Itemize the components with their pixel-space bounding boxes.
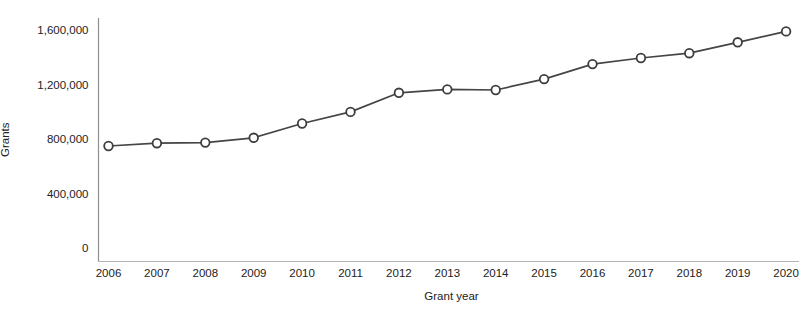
x-tick-label: 2009 <box>241 267 267 279</box>
x-tick-label: 2007 <box>144 267 170 279</box>
data-point-marker <box>395 89 404 98</box>
y-tick-label: 800,000 <box>47 133 89 145</box>
data-point-marker <box>782 27 791 36</box>
x-tick-label: 2018 <box>677 267 703 279</box>
x-tick-label: 2017 <box>628 267 654 279</box>
y-tick-label: 1,600,000 <box>37 24 88 36</box>
data-point-marker <box>588 60 597 69</box>
data-point-marker <box>249 134 258 143</box>
x-tick-label: 2011 <box>338 267 363 279</box>
x-tick-label: 2020 <box>773 267 799 279</box>
x-tick-label: 2014 <box>483 267 509 279</box>
data-point-marker <box>201 138 210 147</box>
data-point-marker <box>346 108 355 117</box>
data-point-marker <box>104 142 113 151</box>
data-point-marker <box>637 54 646 63</box>
data-point-marker <box>540 75 549 84</box>
x-tick-label: 2013 <box>435 267 461 279</box>
chart-canvas: 0400,000800,0001,200,0001,600,0002006200… <box>0 0 803 309</box>
x-tick-label: 2012 <box>386 267 412 279</box>
y-axis-title: Grants <box>0 108 12 172</box>
y-tick-label: 400,000 <box>47 188 89 200</box>
x-tick-label: 2006 <box>96 267 122 279</box>
x-tick-label: 2019 <box>725 267 751 279</box>
data-point-marker <box>491 86 500 95</box>
data-point-marker <box>733 38 742 47</box>
y-tick-label: 0 <box>82 242 88 254</box>
x-axis-title: Grant year <box>0 291 803 303</box>
x-tick-label: 2015 <box>531 267 557 279</box>
data-point-marker <box>153 139 162 148</box>
y-tick-label: 1,200,000 <box>37 79 88 91</box>
data-point-marker <box>443 85 452 94</box>
data-point-marker <box>298 119 307 128</box>
x-tick-label: 2010 <box>289 267 315 279</box>
data-point-marker <box>685 49 694 58</box>
x-tick-label: 2008 <box>193 267 219 279</box>
grants-by-year-line-chart: 0400,000800,0001,200,0001,600,0002006200… <box>0 0 803 309</box>
x-tick-label: 2016 <box>580 267 606 279</box>
